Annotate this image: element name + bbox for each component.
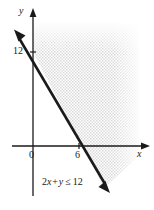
shaded-solution-region [33,23,139,188]
origin-tick-label: 0 [29,150,34,160]
y-axis-arrowhead [30,8,37,17]
inequality-constant: 12 [73,176,83,187]
y-axis-label: y [19,6,23,16]
x-intercept-tick-label: 6 [75,150,80,160]
inequality-x-var: x [47,176,51,187]
inequality-annotation: 2x + y ≤ 12 [42,177,83,187]
inequality-relation-sign: ≤ [65,176,71,187]
x-axis-arrowhead [141,143,150,150]
inequality-graph-figure: y x 12 0 6 2x + y ≤ 12 [0,0,154,210]
inequality-plus-sign: + [52,176,58,187]
y-intercept-tick-label: 12 [13,46,23,56]
x-axis-label: x [137,149,141,159]
inequality-y-var: y [59,176,63,187]
boundary-line-arrowhead-upper [14,30,26,42]
